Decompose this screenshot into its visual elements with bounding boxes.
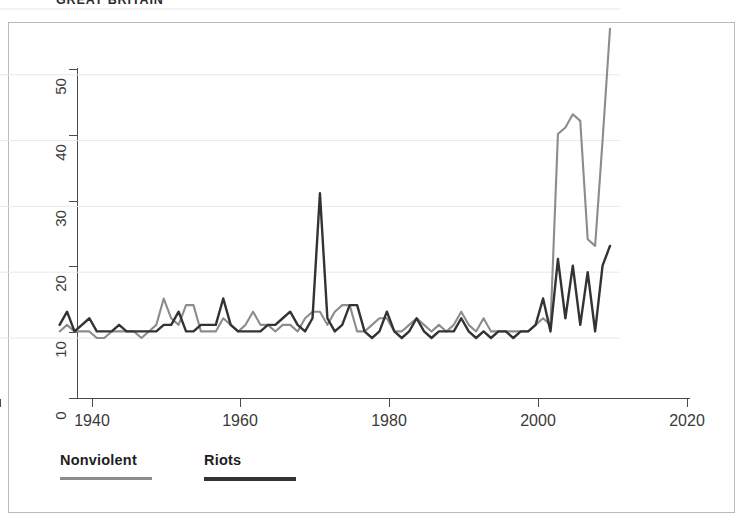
legend-swatch-riots [204, 477, 296, 481]
legend-item-riots[interactable]: Riots [204, 452, 296, 481]
gridlines [0, 9, 620, 338]
legend-swatch-nonviolent [60, 477, 152, 480]
x-tick-2000 [538, 399, 539, 407]
legend-item-nonviolent[interactable]: Nonviolent [60, 452, 152, 480]
x-tick-label-2020: 2020 [652, 412, 722, 430]
x-tick-label-1940: 1940 [57, 412, 127, 430]
x-tick-label-2000: 2000 [503, 412, 573, 430]
x-tick-label-1980: 1980 [354, 412, 424, 430]
legend-label-riots: Riots [204, 452, 296, 468]
x-tick-1940 [92, 399, 93, 407]
x-tick-1980 [389, 399, 390, 407]
series-line-riots [60, 193, 610, 338]
x-tick-2020 [687, 399, 688, 407]
y-tick-0 [69, 398, 77, 399]
x-tick-label-1960: 1960 [205, 412, 275, 430]
x-tick-1960b [240, 399, 241, 407]
plot-canvas [0, 0, 620, 340]
legend-label-nonviolent: Nonviolent [60, 452, 152, 468]
x-axis-line [77, 398, 690, 399]
x-tick-1960 [0, 399, 1, 407]
figure: GREAT BRITAIN 0 10 20 30 40 50 1940 1960… [0, 0, 745, 529]
